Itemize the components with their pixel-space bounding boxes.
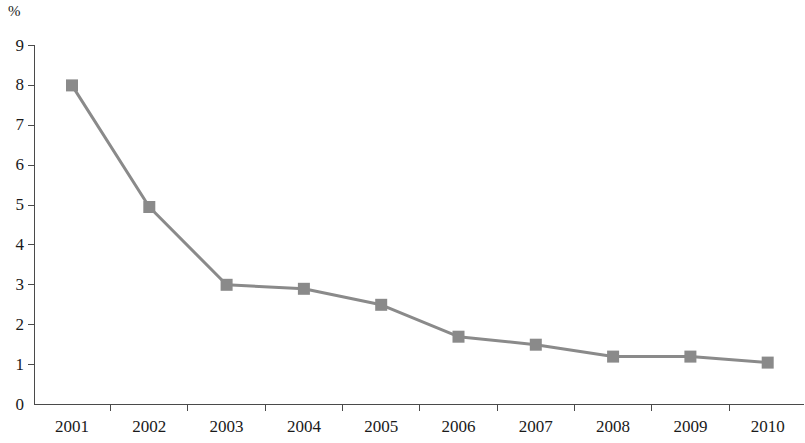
data-point-marker: 2001: 8 [66, 79, 78, 91]
data-point-marker: 2006: 1.7 [453, 331, 465, 343]
y-axis-tick-label: 2 [2, 316, 24, 333]
x-axis-tick-label: 2008 [578, 418, 648, 435]
x-axis-tick-label: 2005 [346, 418, 416, 435]
data-point-marker: 2008: 1.2 [607, 351, 619, 363]
data-point-marker: 2003: 3 [221, 279, 233, 291]
x-axis-tick-label: 2004 [269, 418, 339, 435]
y-axis-tick-label: 3 [2, 276, 24, 293]
x-axis-tick-label: 2006 [424, 418, 494, 435]
series-line-0 [72, 85, 768, 362]
x-axis-tick-label: 2001 [37, 418, 107, 435]
y-axis-tick-label: 6 [2, 156, 24, 173]
data-point-marker: 2005: 2.5 [375, 299, 387, 311]
data-point-marker: 2009: 1.2 [684, 351, 696, 363]
y-axis-tick-label: 9 [2, 37, 24, 54]
y-axis-tick-label: 0 [2, 396, 24, 413]
y-axis-tick-label: 7 [2, 116, 24, 133]
x-axis-tick-label: 2007 [501, 418, 571, 435]
y-axis-tick-label: 4 [2, 236, 24, 253]
data-point-marker: 2002: 4.95 [143, 201, 155, 213]
data-point-marker: 2010: 1.05 [762, 357, 774, 369]
data-point-marker: 2004: 2.9 [298, 283, 310, 295]
y-axis-tick-label: 8 [2, 76, 24, 93]
line-chart: % 2001: 82002: 4.952003: 32004: 2.92005:… [0, 0, 805, 443]
data-point-marker: 2007: 1.5 [530, 339, 542, 351]
x-axis-tick-label: 2010 [733, 418, 803, 435]
x-axis-tick-label: 2002 [114, 418, 184, 435]
x-axis-tick-label: 2003 [192, 418, 262, 435]
chart-plot-area: 2001: 82002: 4.952003: 32004: 2.92005: 2… [0, 0, 805, 443]
y-axis-tick-label: 1 [2, 356, 24, 373]
data-series-group: 2001: 82002: 4.952003: 32004: 2.92005: 2… [66, 79, 774, 368]
y-axis-tick-label: 5 [2, 196, 24, 213]
x-axis-tick-label: 2009 [655, 418, 725, 435]
